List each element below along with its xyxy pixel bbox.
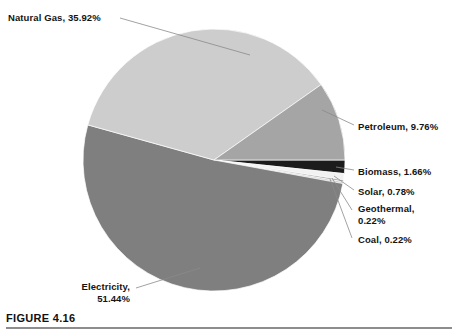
- figure-caption: FIGURE 4.16: [6, 312, 452, 336]
- slice-label-geothermal-value: 0.22%: [358, 215, 454, 227]
- figure-container: Natural Gas, 35.92% Petroleum, 9.76% Bio…: [0, 0, 458, 336]
- slice-label-natural-gas-text: Natural Gas, 35.92%: [8, 12, 101, 23]
- slice-label-geothermal-name: Geothermal,: [358, 203, 454, 215]
- slice-label-petroleum: Petroleum, 9.76%: [358, 121, 438, 133]
- slice-label-electricity: Electricity, 51.44%: [28, 281, 130, 304]
- slice-label-solar: Solar, 0.78%: [358, 186, 415, 198]
- slice-label-coal: Coal, 0.22%: [358, 234, 412, 246]
- pie-slice-group: [83, 29, 345, 291]
- slice-label-electricity-name: Electricity,: [28, 281, 130, 293]
- slice-label-coal-text: Coal, 0.22%: [358, 234, 412, 245]
- slice-label-biomass-text: Biomass, 1.66%: [358, 166, 431, 177]
- figure-caption-subtext: [6, 331, 452, 336]
- figure-caption-label: FIGURE 4.16: [6, 312, 452, 325]
- slice-label-electricity-value: 51.44%: [28, 293, 130, 305]
- slice-label-petroleum-text: Petroleum, 9.76%: [358, 121, 438, 132]
- slice-label-solar-text: Solar, 0.78%: [358, 186, 415, 197]
- slice-label-geothermal: Geothermal, 0.22%: [358, 203, 454, 226]
- caption-divider: [6, 327, 452, 329]
- slice-label-biomass: Biomass, 1.66%: [358, 166, 431, 178]
- slice-label-natural-gas: Natural Gas, 35.92%: [8, 12, 101, 24]
